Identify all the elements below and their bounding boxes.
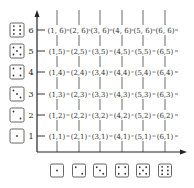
y-axis-label: 2: [28, 111, 33, 120]
die-face-2-icon: [73, 164, 86, 177]
outcome-label: (4,2): [114, 112, 131, 120]
die-face-1-icon: [51, 164, 64, 177]
outcome-label: (3, 6): [91, 27, 110, 35]
outcome-label: (1,2): [49, 112, 66, 120]
die-face-3-icon: [10, 87, 24, 101]
outcome-label: (4, 6): [113, 27, 132, 35]
outcome-label: (1,1): [49, 133, 66, 141]
cell-labels: (1, 6)(2, 6)(3, 6)(4, 6)(5, 6)(6, 6)(1,5…: [48, 27, 175, 141]
outcome-label: (2,5): [71, 48, 88, 56]
outcome-label: (1,4): [49, 69, 66, 77]
outcome-label: (5, 6): [134, 27, 153, 35]
outcome-label: (5,2): [135, 112, 152, 120]
outcome-label: (4,4): [114, 69, 131, 77]
outcome-label: (1, 6): [48, 27, 67, 35]
y-axis-labels: 123456: [28, 26, 33, 141]
outcome-label: (4,5): [114, 48, 131, 56]
outcome-label: (4,1): [114, 133, 131, 141]
outcome-label: (1,5): [49, 48, 66, 56]
die-face-5-icon: [10, 44, 24, 58]
x-axis-arrow-icon: [180, 150, 187, 155]
outcome-label: (4,3): [114, 91, 131, 99]
outcome-label: (5,5): [135, 48, 152, 56]
y-axis-label: 5: [28, 47, 33, 56]
outcome-label: (5,3): [135, 91, 152, 99]
outcome-label: (5,1): [135, 133, 152, 141]
outcome-label: (2,1): [71, 133, 88, 141]
outcome-label: (5,4): [135, 69, 152, 77]
outcome-label: (1,3): [49, 91, 66, 99]
outcome-label: (3,2): [92, 112, 109, 120]
die-face-2-icon: [10, 108, 24, 122]
outcome-label: (3,3): [92, 91, 109, 99]
outcome-label: (6,5): [157, 48, 174, 56]
die-face-3-icon: [94, 164, 107, 177]
x-axis-dice: [51, 164, 172, 177]
outcome-label: (6,2): [157, 112, 174, 120]
die-face-6-icon: [159, 164, 172, 177]
outcome-label: (6, 6): [156, 27, 175, 35]
outcome-label: (6,1): [157, 133, 174, 141]
outcome-label: (2,2): [71, 112, 88, 120]
outcome-label: (6,3): [157, 91, 174, 99]
outcome-label: (6,4): [157, 69, 174, 77]
die-face-4-icon: [116, 164, 129, 177]
y-axis-label: 3: [28, 90, 33, 99]
y-axis-label: 4: [28, 68, 33, 77]
y-axis-dice: [10, 23, 24, 143]
outcome-label: (3,5): [92, 48, 109, 56]
outcome-label: (3,4): [92, 69, 109, 77]
outcome-label: (3,1): [92, 133, 109, 141]
die-face-1-icon: [10, 129, 24, 143]
outcome-label: (2,3): [71, 91, 88, 99]
outcome-label: (2, 6): [70, 27, 89, 35]
outcome-label: (2,4): [71, 69, 88, 77]
dice-sample-space-diagram: (1, 6)(2, 6)(3, 6)(4, 6)(5, 6)(6, 6)(1,5…: [0, 0, 194, 188]
die-face-6-icon: [10, 23, 24, 37]
die-face-5-icon: [137, 164, 150, 177]
y-axis-arrow-icon: [35, 10, 40, 17]
y-axis-label: 6: [28, 26, 33, 35]
y-axis-label: 1: [28, 132, 33, 141]
die-face-4-icon: [10, 65, 24, 79]
